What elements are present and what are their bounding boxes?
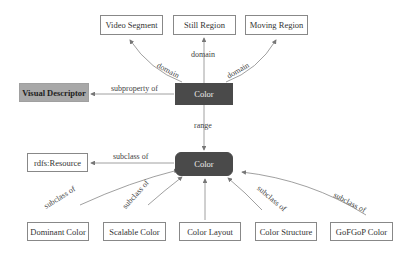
node-visual-descriptor: Visual Descriptor: [19, 83, 89, 102]
node-color-structure: Color Structure: [255, 222, 317, 241]
node-scalable-color: Scalable Color: [103, 222, 166, 241]
node-moving-region: Moving Region: [245, 15, 308, 35]
edge-subclass-structure: [228, 178, 262, 210]
label-subproperty: subproperty of: [111, 84, 158, 93]
label-range: range: [194, 121, 212, 130]
node-color-layout: Color Layout: [179, 222, 241, 241]
node-dominant-color: Dominant Color: [27, 222, 89, 241]
node-rdfs-resource: rdfs:Resource: [27, 153, 88, 172]
node-color-class: Color: [175, 152, 233, 176]
node-color-property: Color: [175, 83, 233, 105]
label-domain-center: domain: [191, 50, 215, 59]
node-still-region: Still Region: [173, 15, 236, 35]
edge-subclass-scalable: [148, 177, 182, 205]
node-video-segment: Video Segment: [100, 15, 163, 35]
label-subclass-rdfs: subclass of: [113, 152, 148, 161]
node-gofgop-color: GoFGoP Color: [330, 222, 393, 241]
